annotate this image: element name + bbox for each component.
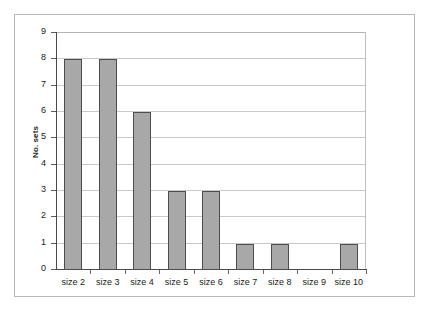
- x-tick-label: size 5: [159, 277, 193, 288]
- x-tick-label: size 2: [56, 277, 90, 288]
- y-tick-label: 9: [15, 27, 46, 36]
- y-tick-label: 1: [15, 238, 46, 247]
- y-tick-label: 2: [15, 211, 46, 220]
- y-tick-label: 0: [15, 264, 46, 273]
- x-axis-labels: size 2size 3size 4size 5size 6size 7size…: [56, 277, 367, 291]
- bar[interactable]: [64, 59, 82, 270]
- x-tick-label: size 9: [297, 277, 331, 288]
- x-tick-mark: [366, 270, 367, 274]
- y-tick-label: 4: [15, 159, 46, 168]
- y-tick-label: 8: [15, 53, 46, 62]
- x-tick-label: size 4: [125, 277, 159, 288]
- bar[interactable]: [99, 59, 117, 270]
- y-tick-label: 6: [15, 106, 46, 115]
- bar[interactable]: [271, 244, 289, 270]
- x-tick-label: size 10: [332, 277, 366, 288]
- x-tick-label: size 7: [228, 277, 262, 288]
- chart-figure: No. sets 9876543210 size 2size 3size 4si…: [14, 14, 415, 297]
- y-tick-label: 5: [15, 132, 46, 141]
- y-tick-label: 3: [15, 185, 46, 194]
- x-tick-mark: [332, 270, 333, 274]
- bar[interactable]: [168, 191, 186, 270]
- bar[interactable]: [202, 191, 220, 270]
- bars-layer: [56, 32, 367, 270]
- x-tick-mark: [297, 270, 298, 274]
- bar[interactable]: [133, 112, 151, 270]
- bar[interactable]: [340, 244, 358, 270]
- x-tick-mark: [125, 270, 126, 274]
- x-tick-label: size 6: [194, 277, 228, 288]
- x-tick-label: size 8: [263, 277, 297, 288]
- bar[interactable]: [236, 244, 254, 270]
- y-tick-label: 7: [15, 80, 46, 89]
- x-tick-mark: [159, 270, 160, 274]
- x-tick-mark: [90, 270, 91, 274]
- x-tick-label: size 3: [90, 277, 124, 288]
- x-tick-mark: [263, 270, 264, 274]
- x-tick-mark: [194, 270, 195, 274]
- x-tick-mark: [228, 270, 229, 274]
